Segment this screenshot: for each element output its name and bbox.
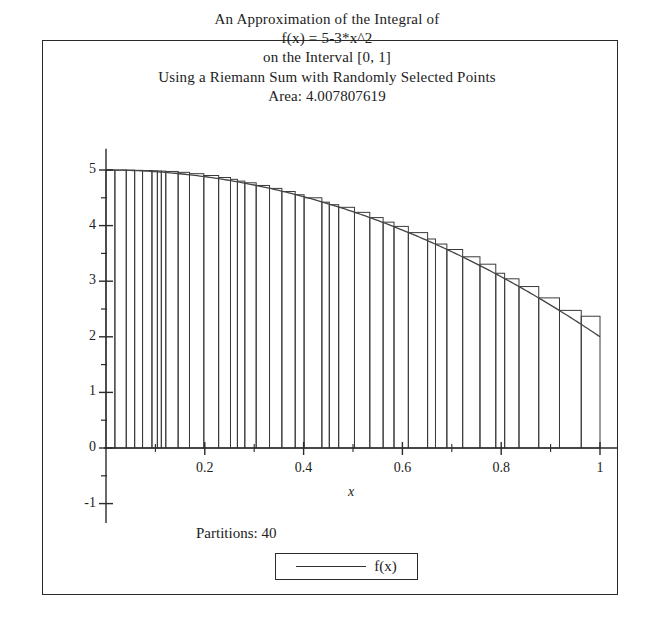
riemann-rectangle [143, 171, 152, 448]
riemann-rectangle [428, 239, 436, 448]
x-axis-name: x [348, 484, 354, 500]
x-axis-tick-label: 0.4 [284, 460, 324, 476]
riemann-rectangle [505, 279, 519, 448]
riemann-rectangle [189, 174, 203, 448]
riemann-rectangle [559, 310, 581, 448]
riemann-rectangle [178, 172, 189, 448]
riemann-rectangle [115, 170, 126, 448]
riemann-rectangle [237, 181, 244, 448]
y-axis-tick-label: 4 [72, 217, 96, 233]
legend-series-label: f(x) [374, 559, 397, 574]
riemann-rectangle [219, 178, 231, 448]
y-axis-tick-label: 0 [72, 439, 96, 455]
riemann-rectangle [408, 233, 427, 448]
riemann-rectangle [480, 264, 496, 448]
riemann-rectangle [126, 170, 134, 448]
riemann-rectangle [329, 205, 338, 448]
riemann-rectangle [106, 170, 115, 448]
riemann-rectangle [394, 226, 408, 448]
y-axis-tick-label: -1 [72, 495, 96, 511]
legend-box: f(x) [275, 553, 418, 580]
riemann-rectangle [519, 287, 539, 448]
riemann-rectangle [152, 171, 157, 448]
x-axis-tick-label: 0.6 [382, 460, 422, 476]
y-axis-tick-label: 3 [72, 272, 96, 288]
y-axis-tick-label: 1 [72, 383, 96, 399]
x-axis-tick-label: 0.8 [481, 460, 521, 476]
riemann-rectangle [447, 250, 463, 448]
riemann-rectangle [383, 222, 394, 448]
function-curve [106, 170, 600, 337]
riemann-rectangle [339, 207, 355, 448]
x-axis-tick-label: 0.2 [185, 460, 225, 476]
legend-line-swatch [296, 566, 366, 567]
partitions-label: Partitions: 40 [196, 525, 276, 542]
riemann-rectangle [135, 170, 143, 448]
function-curve-group [106, 170, 600, 337]
y-axis-tick-label: 2 [72, 328, 96, 344]
riemann-rectangle [256, 185, 269, 448]
riemann-rectangle [581, 316, 600, 448]
riemann-rectangle [370, 218, 383, 448]
riemann-rectangle [539, 298, 560, 448]
riemann-rectangle [304, 198, 322, 448]
riemann-rectangle [230, 179, 237, 448]
riemann-rectangle [463, 257, 480, 448]
riemann-rectangle [270, 188, 282, 448]
riemann-rectangle [157, 171, 161, 448]
riemann-rectangle [245, 183, 256, 448]
riemann-rectangle [354, 212, 369, 448]
riemann-rectangle [204, 176, 219, 449]
riemann-rectangle [295, 195, 304, 448]
riemann-sum-plot [0, 0, 654, 630]
riemann-rectangle [436, 244, 447, 448]
riemann-rectangle [322, 202, 329, 448]
axes-group [99, 149, 618, 523]
x-axis-tick-label: 1 [580, 460, 620, 476]
riemann-rectangle [161, 171, 165, 448]
riemann-rectangle [166, 171, 178, 448]
riemann-rectangle [282, 192, 295, 448]
riemann-rectangle [496, 273, 505, 448]
y-axis-tick-label: 5 [72, 161, 96, 177]
